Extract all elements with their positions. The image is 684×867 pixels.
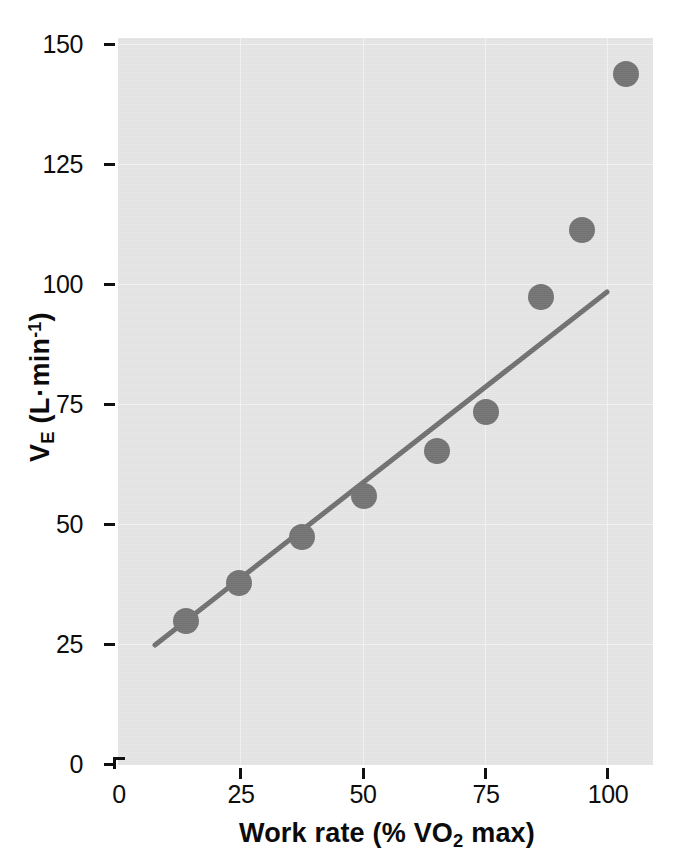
data-point bbox=[473, 399, 499, 425]
y-tick-label-50: 50 bbox=[56, 510, 83, 539]
y-tick-label-25: 25 bbox=[56, 630, 83, 659]
y-tick-mark-125 bbox=[104, 163, 115, 166]
x-axis-title-two-subscript: 2 bbox=[453, 830, 463, 851]
x-tick-label-75: 75 bbox=[472, 780, 499, 809]
x-tick-mark-75 bbox=[484, 768, 487, 779]
x-tick-label-50: 50 bbox=[349, 780, 376, 809]
chart-figure: 0 25 50 75 100 125 150 0 25 50 75 100 VE… bbox=[0, 0, 684, 867]
x-axis-title-max: max) bbox=[463, 818, 535, 848]
middot-icon: · bbox=[25, 386, 55, 397]
y-tick-mark-150 bbox=[104, 43, 115, 46]
y-tick-label-75: 75 bbox=[56, 390, 83, 419]
data-point bbox=[226, 570, 252, 596]
data-point bbox=[289, 524, 315, 550]
data-point bbox=[569, 217, 595, 243]
data-point bbox=[424, 438, 450, 464]
data-point bbox=[173, 608, 199, 634]
y-axis-title-exponent: -1 bbox=[25, 322, 45, 338]
data-point bbox=[351, 483, 377, 509]
y-axis-title-min: min bbox=[25, 338, 55, 387]
x-tick-mark-25 bbox=[239, 768, 242, 779]
y-axis-title-v: V bbox=[25, 444, 55, 462]
y-tick-mark-25 bbox=[104, 643, 115, 646]
x-tick-mark-50 bbox=[362, 768, 365, 779]
data-point bbox=[613, 61, 639, 87]
x-tick-label-100: 100 bbox=[588, 780, 629, 809]
x-axis-title: Work rate (% VO2 max) bbox=[0, 818, 684, 852]
x-axis-title-main: Work rate (% VO bbox=[239, 818, 453, 848]
y-tick-label-0: 0 bbox=[69, 750, 83, 779]
y-tick-mark-50 bbox=[104, 523, 115, 526]
x-tick-label-25: 25 bbox=[227, 780, 254, 809]
y-axis-title-close: ) bbox=[25, 312, 55, 321]
y-axis-title-e-subscript: E bbox=[37, 431, 58, 443]
y-tick-mark-100 bbox=[104, 283, 115, 286]
y-axis-title-open: (L bbox=[25, 398, 55, 432]
axis-origin-corner bbox=[113, 757, 125, 769]
y-tick-label-150: 150 bbox=[42, 30, 83, 59]
plot-area bbox=[118, 38, 653, 765]
y-axis-title: VE (L·min-1) bbox=[25, 127, 59, 647]
x-tick-mark-100 bbox=[606, 768, 609, 779]
x-tick-label-0: 0 bbox=[112, 780, 126, 809]
data-point bbox=[528, 284, 554, 310]
y-tick-mark-75 bbox=[104, 403, 115, 406]
fit-line bbox=[118, 38, 653, 765]
